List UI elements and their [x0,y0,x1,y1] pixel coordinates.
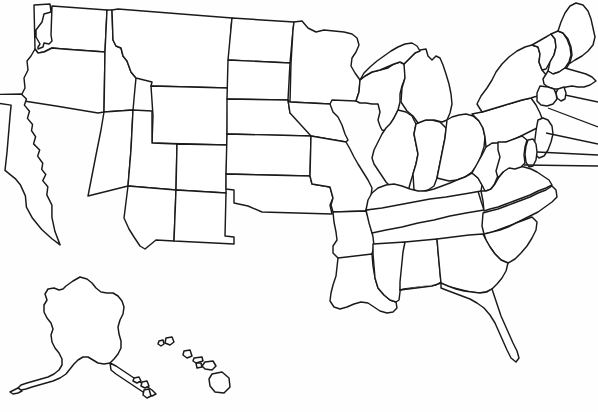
state-kansas [226,134,311,176]
alaska-aleutian-tail [10,388,22,394]
alaska-islet-1 [133,377,141,383]
state-north-dakota [228,18,294,63]
us-map-svg [0,0,598,412]
state-minnesota-shape [290,21,360,104]
leader-line-rhode-island [565,95,598,102]
alaska-islet-2 [141,381,149,388]
state-connecticut-shape [537,86,557,106]
hawaii-island-lanai [196,363,202,368]
state-alaska-inset [18,277,124,390]
state-wyoming [151,86,228,145]
leader-line-connecticut [548,108,598,127]
alaska-islet-3 [143,389,151,398]
leader-line-new-jersey [546,133,598,144]
us-outline-map-page: Blank outline map of the United States U… [0,0,598,412]
state-alabama-shape [400,239,441,290]
hawaii-island-kauai [165,337,174,345]
state-south-dakota [227,60,290,100]
state-new-mexico [174,190,234,244]
state-colorado [176,144,227,193]
hawaii-island-maui [202,361,216,370]
hawaii-island-oahu [183,350,192,358]
state-arizona [124,186,176,249]
state-nevada [88,110,133,196]
hawaii-island-molokai [193,357,203,363]
hawaii-island-niihau [158,340,164,346]
hawaii-island-hawaii [209,372,230,393]
state-washington [34,4,107,53]
leader-line-maryland [524,165,598,166]
